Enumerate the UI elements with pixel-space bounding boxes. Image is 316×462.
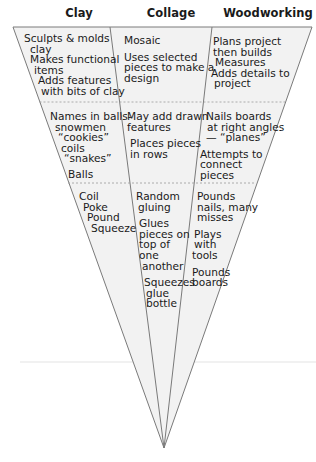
- cell-line: tools: [192, 250, 258, 261]
- cell-line: Squeeze: [79, 223, 136, 234]
- clay-bottom-cell: Coil Poke Pound Squeeze: [79, 191, 136, 233]
- cell-line: another: [136, 261, 195, 272]
- column-header-woodworking: Woodworking: [220, 6, 316, 20]
- cell-line: gluing: [136, 202, 195, 213]
- cell-line: in rows: [127, 149, 209, 160]
- cell-line: bottle: [136, 298, 195, 309]
- cell-line: Pounds: [197, 191, 258, 202]
- cell-line: Names in balls-: [50, 111, 132, 122]
- cell-line: design: [124, 73, 214, 84]
- cell-line: pieces: [200, 170, 284, 181]
- column-header-clay: Clay: [44, 6, 114, 20]
- woodworking-top-cell: Plans project then builds Measures Adds …: [213, 36, 290, 89]
- column-header-collage: Collage: [136, 6, 206, 20]
- cell-line: project: [213, 78, 290, 89]
- cell-line: Sculpts & molds: [24, 33, 125, 44]
- clay-top-cell: Sculpts & molds clay Makes functional it…: [24, 33, 125, 97]
- clay-middle-cell: Names in balls- snowmen “cookies” coils …: [50, 111, 132, 180]
- cell-line: Plans project: [213, 36, 290, 47]
- woodworking-bottom-cell: Pounds nails, many misses Plays with too…: [197, 191, 258, 288]
- cell-line: Coil: [79, 191, 136, 202]
- cell-line: with bits of clay: [24, 86, 125, 97]
- cell-line: boards: [192, 277, 258, 288]
- cell-line: Balls: [50, 169, 132, 180]
- cell-line: — “planes”: [206, 132, 284, 143]
- cell-line: Mosaic: [124, 35, 214, 46]
- funnel-diagram: Clay Collage Woodworking Sculpts & molds…: [0, 0, 316, 462]
- collage-top-cell: Mosaic Uses selected pieces to make a de…: [124, 35, 214, 83]
- cell-line: misses: [197, 212, 258, 223]
- cell-line: “snakes”: [50, 153, 132, 164]
- collage-middle-cell: May add drawn features Places pieces in …: [127, 111, 209, 159]
- cell-line: Nails boards: [206, 111, 284, 122]
- collage-bottom-cell: Random gluing Glues pieces on top of one…: [136, 191, 195, 309]
- woodworking-middle-cell: Nails boards at right angles — “planes” …: [206, 111, 284, 181]
- cell-line: one: [136, 250, 195, 261]
- cell-line: features: [127, 122, 209, 133]
- cell-line: Random: [136, 191, 195, 202]
- cell-line: May add drawn: [127, 111, 209, 122]
